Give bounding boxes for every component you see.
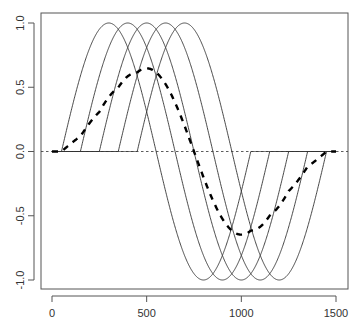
chart: 050010001500 -1.0-0.50.00.51.0 xyxy=(0,0,364,329)
y-tick-label: -1.0 xyxy=(14,271,26,290)
x-tick-label: 1000 xyxy=(229,307,253,319)
y-axis: -1.0-0.50.00.51.0 xyxy=(14,15,34,289)
x-tick-label: 500 xyxy=(137,307,155,319)
x-axis: 050010001500 xyxy=(49,296,348,319)
x-tick-label: 0 xyxy=(49,307,55,319)
y-tick-label: -0.5 xyxy=(14,206,26,225)
y-tick-label: 0.5 xyxy=(14,80,26,95)
y-tick-label: 0.0 xyxy=(14,144,26,159)
x-tick-label: 1500 xyxy=(324,307,348,319)
y-tick-label: 1.0 xyxy=(14,15,26,30)
